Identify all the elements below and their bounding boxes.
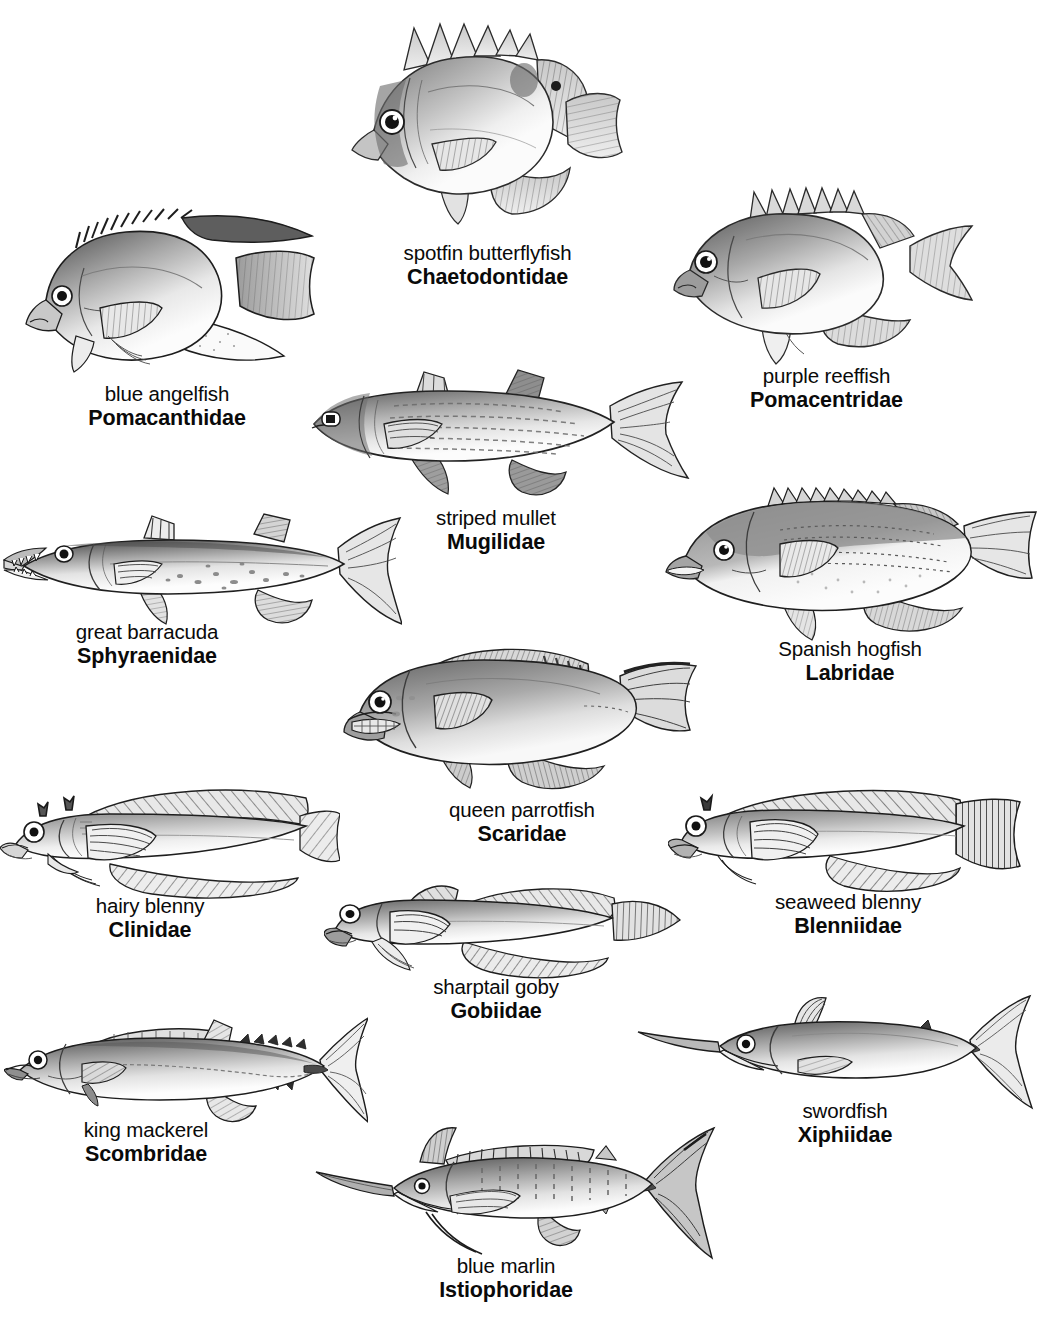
parrotfish-icon bbox=[338, 636, 702, 806]
marlin-icon bbox=[306, 1126, 716, 1274]
fish-label-chaetodontidae: spotfin butterflyfish Chaetodontidae bbox=[380, 241, 595, 290]
fish-label-xiphiidae: swordfish Xiphiidae bbox=[720, 1099, 970, 1148]
family-name: Pomacentridae bbox=[714, 388, 939, 413]
fish-label-pomacentridae: purple reeffish Pomacentridae bbox=[714, 364, 939, 413]
goby-icon bbox=[324, 876, 684, 986]
fish-family-plate: spotfin butterflyfish Chaetodontidae bbox=[0, 0, 1042, 1324]
common-name: blue marlin bbox=[346, 1254, 666, 1278]
fish-label-scaridae: queen parrotfish Scaridae bbox=[382, 798, 662, 847]
fish-entry-istiophoridae: blue marlin Istiophoridae bbox=[306, 1126, 716, 1316]
fish-label-istiophoridae: blue marlin Istiophoridae bbox=[346, 1254, 666, 1303]
common-name: hairy blenny bbox=[20, 894, 280, 918]
fish-entry-gobiidae: sharptail goby Gobiidae bbox=[324, 876, 684, 1026]
family-name: Chaetodontidae bbox=[380, 265, 595, 290]
common-name: seaweed blenny bbox=[698, 890, 998, 914]
fish-entry-blenniidae: seaweed blenny Blenniidae bbox=[668, 780, 1028, 960]
hogfish-icon bbox=[662, 482, 1042, 647]
common-name: king mackerel bbox=[16, 1118, 276, 1142]
fish-label-sphyraenidae: great barracuda Sphyraenidae bbox=[2, 620, 292, 669]
fish-label-pomacanthidae: blue angelfish Pomacanthidae bbox=[47, 382, 287, 431]
blenny-icon bbox=[0, 782, 340, 907]
family-name: Scaridae bbox=[382, 822, 662, 847]
common-name: blue angelfish bbox=[47, 382, 287, 406]
family-name: Labridae bbox=[700, 661, 1000, 686]
fish-label-clinidae: hairy blenny Clinidae bbox=[20, 894, 280, 943]
common-name: queen parrotfish bbox=[382, 798, 662, 822]
family-name: Sphyraenidae bbox=[2, 644, 292, 669]
fish-label-blenniidae: seaweed blenny Blenniidae bbox=[698, 890, 998, 939]
fish-entry-labridae: Spanish hogfish Labridae bbox=[662, 482, 1042, 682]
common-name: spotfin butterflyfish bbox=[380, 241, 595, 265]
fish-entry-scaridae: queen parrotfish Scaridae bbox=[338, 636, 702, 836]
family-name: Gobiidae bbox=[346, 999, 646, 1024]
fish-label-scombridae: king mackerel Scombridae bbox=[16, 1118, 276, 1167]
damselfish-icon bbox=[672, 178, 982, 368]
common-name: Spanish hogfish bbox=[700, 637, 1000, 661]
fish-entry-pomacentridae: purple reeffish Pomacentridae bbox=[672, 178, 982, 428]
fish-entry-chaetodontidae: spotfin butterflyfish Chaetodontidae bbox=[344, 18, 630, 328]
family-name: Pomacanthidae bbox=[47, 406, 287, 431]
blenny-icon bbox=[668, 780, 1028, 908]
fish-label-gobiidae: sharptail goby Gobiidae bbox=[346, 975, 646, 1024]
common-name: purple reeffish bbox=[714, 364, 939, 388]
family-name: Istiophoridae bbox=[346, 1278, 666, 1303]
fish-entry-clinidae: hairy blenny Clinidae bbox=[0, 782, 340, 962]
swordfish-icon bbox=[636, 994, 1036, 1116]
family-name: Blenniidae bbox=[698, 914, 998, 939]
family-name: Scombridae bbox=[16, 1142, 276, 1167]
family-name: Clinidae bbox=[20, 918, 280, 943]
common-name: great barracuda bbox=[2, 620, 292, 644]
mullet-icon bbox=[298, 366, 694, 516]
common-name: sharptail goby bbox=[346, 975, 646, 999]
fish-label-labridae: Spanish hogfish Labridae bbox=[700, 637, 1000, 686]
fish-entry-pomacanthidae: blue angelfish Pomacanthidae bbox=[22, 196, 342, 446]
butterflyfish-icon bbox=[344, 18, 630, 243]
family-name: Xiphiidae bbox=[720, 1123, 970, 1148]
barracuda-icon bbox=[2, 508, 402, 633]
angelfish-icon bbox=[22, 196, 342, 382]
common-name: swordfish bbox=[720, 1099, 970, 1123]
